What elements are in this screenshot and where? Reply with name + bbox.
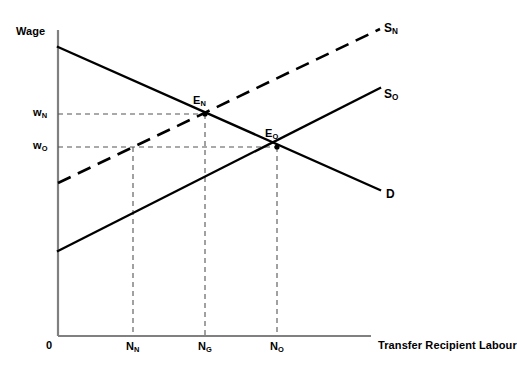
x-axis-title: Transfer Recipient Labour — [378, 340, 517, 351]
eq-sub-O: O — [272, 132, 278, 141]
equilibrium-label-E-O: EO — [265, 128, 278, 139]
curve-label-S-O: SO — [384, 88, 398, 100]
x-tick-sub-O: O — [278, 345, 284, 354]
equilibrium-point-E-N — [202, 111, 207, 116]
curve-sub-S-O: O — [392, 93, 398, 102]
x-tick-sub-G: G — [206, 345, 212, 354]
y-tick-sub-O: O — [42, 144, 48, 153]
curve-sub-S-N: N — [392, 27, 398, 36]
x-tick-label-N-G: NG — [198, 341, 212, 352]
x-tick-label-N-N: NN — [126, 341, 139, 352]
curve-label-S-N: SN — [384, 22, 398, 34]
y-axis-title: Wage — [16, 26, 45, 37]
x-tick-label-N-O: NO — [270, 341, 284, 352]
equilibrium-label-E-N: EN — [193, 95, 206, 106]
y-tick-label-w-N: wN — [33, 107, 47, 118]
axes-group — [58, 30, 371, 336]
curve-label-D: D — [386, 188, 395, 200]
equilibrium-point-E-O — [274, 144, 279, 149]
guide-lines-group — [58, 114, 277, 336]
y-tick-label-w-O: wO — [33, 140, 47, 151]
supply-curve-S-N — [58, 29, 380, 183]
x-tick-sub-N: N — [134, 345, 139, 354]
eq-sub-N: N — [200, 99, 205, 108]
origin-label: 0 — [46, 340, 52, 351]
y-tick-sub-N: N — [42, 111, 47, 120]
